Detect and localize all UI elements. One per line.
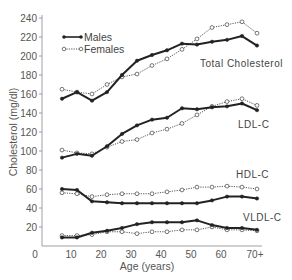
male-marker-icon	[240, 34, 243, 37]
male-marker-icon	[255, 44, 258, 47]
x-tick-label: 40	[155, 249, 167, 260]
legend-label-males: Males	[84, 31, 112, 43]
male-marker-icon	[210, 106, 213, 109]
female-marker-icon	[180, 228, 184, 232]
male-marker-icon	[210, 223, 213, 226]
female-marker-icon	[120, 192, 124, 196]
y-tick-label: 120	[20, 127, 37, 138]
legend-female-marker-icon	[62, 47, 66, 51]
female-marker-icon	[165, 230, 169, 234]
y-axis-title: Cholesterol (mg/dl)	[7, 88, 19, 177]
female-marker-icon	[150, 131, 154, 135]
male-marker-icon	[225, 226, 228, 229]
x-axis-title: Age (years)	[120, 260, 174, 272]
female-marker-icon	[240, 185, 244, 189]
female-marker-icon	[60, 87, 64, 91]
female-marker-icon	[180, 122, 184, 126]
series-group-hdl-c	[60, 184, 259, 205]
female-marker-icon	[225, 100, 229, 104]
male-marker-icon	[150, 221, 153, 224]
female-marker-icon	[180, 188, 184, 192]
female-marker-icon	[150, 64, 154, 68]
male-marker-icon	[75, 152, 78, 155]
female-marker-icon	[180, 47, 184, 51]
male-marker-icon	[90, 200, 93, 203]
male-marker-icon	[120, 202, 123, 205]
female-marker-icon	[90, 195, 94, 199]
male-marker-icon	[225, 195, 228, 198]
female-marker-icon	[120, 140, 124, 144]
male-marker-icon	[195, 202, 198, 205]
female-marker-icon	[135, 138, 139, 142]
male-marker-icon	[195, 43, 198, 46]
male-marker-icon	[90, 154, 93, 157]
male-marker-icon	[60, 97, 63, 100]
female-marker-icon	[60, 148, 64, 152]
x-tick-label: 20	[95, 249, 107, 260]
female-marker-icon	[150, 230, 154, 234]
legend-male-marker-icon	[79, 35, 83, 39]
male-marker-icon	[165, 202, 168, 205]
y-tick-label: 200	[20, 51, 37, 62]
female-marker-icon	[150, 192, 154, 196]
y-tick-label: 20	[26, 222, 38, 233]
female-marker-icon	[210, 185, 214, 189]
male-marker-icon	[225, 38, 228, 41]
male-marker-icon	[195, 219, 198, 222]
male-line	[62, 104, 257, 158]
male-marker-icon	[105, 201, 108, 204]
legend-male-marker-icon	[62, 35, 66, 39]
female-marker-icon	[255, 187, 259, 191]
y-tick-label: 240	[20, 13, 37, 24]
male-marker-icon	[240, 102, 243, 105]
male-marker-icon	[240, 195, 243, 198]
male-marker-icon	[135, 202, 138, 205]
male-marker-icon	[255, 108, 258, 111]
male-marker-icon	[180, 107, 183, 110]
male-marker-icon	[135, 124, 138, 127]
female-marker-icon	[240, 20, 244, 24]
male-marker-icon	[120, 226, 123, 229]
male-marker-icon	[90, 99, 93, 102]
male-marker-icon	[150, 118, 153, 121]
label-hdl-c: HDL-C	[236, 169, 269, 180]
female-marker-icon	[90, 92, 94, 96]
male-marker-icon	[150, 202, 153, 205]
female-marker-icon	[105, 83, 109, 87]
male-marker-icon	[165, 221, 168, 224]
x-tick-label: 50	[185, 249, 197, 260]
male-marker-icon	[60, 187, 63, 190]
female-marker-icon	[255, 104, 259, 108]
x-tick-label: 10	[65, 249, 77, 260]
legend: Males Females	[62, 31, 124, 55]
female-marker-icon	[210, 26, 214, 30]
female-marker-icon	[255, 31, 259, 35]
legend-female-marker-icon	[79, 47, 83, 51]
male-marker-icon	[135, 222, 138, 225]
male-marker-icon	[255, 228, 258, 231]
male-marker-icon	[135, 59, 138, 62]
female-marker-icon	[75, 192, 79, 196]
male-marker-icon	[180, 202, 183, 205]
female-marker-icon	[165, 190, 169, 194]
y-tick-label: 160	[20, 89, 37, 100]
male-marker-icon	[75, 90, 78, 93]
y-tick-label: 0	[32, 249, 38, 260]
x-tick-label: 30	[125, 249, 137, 260]
y-tick-label: 140	[20, 108, 37, 119]
male-marker-icon	[195, 108, 198, 111]
male-marker-icon	[165, 116, 168, 119]
legend-females: Females	[62, 43, 124, 55]
male-marker-icon	[150, 53, 153, 56]
male-marker-icon	[225, 105, 228, 108]
female-marker-icon	[195, 113, 199, 117]
male-marker-icon	[75, 236, 78, 239]
female-marker-icon	[105, 193, 109, 197]
female-marker-icon	[120, 230, 124, 234]
female-marker-icon	[135, 232, 139, 236]
male-marker-icon	[60, 156, 63, 159]
legend-males: Males	[62, 31, 112, 43]
label-ldl-c: LDL-C	[238, 119, 269, 130]
male-marker-icon	[210, 199, 213, 202]
cholesterol-by-age-chart: 0204060801001201401601802002202401020304…	[0, 0, 292, 280]
